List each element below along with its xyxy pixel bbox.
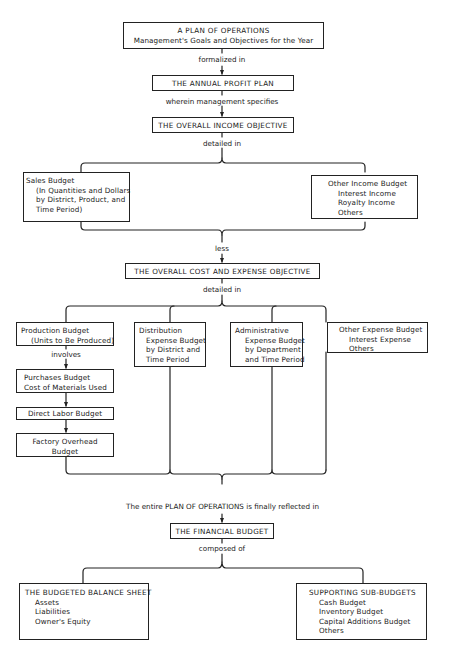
- distribution-line: by District and: [139, 345, 205, 355]
- plan-subtitle: Management's Goals and Objectives for th…: [124, 36, 323, 46]
- sales-budget-line: (In Quantities and Dollars: [26, 186, 129, 196]
- cost-objective-title: THE OVERALL COST AND EXPENSE OBJECTIVE: [134, 267, 310, 276]
- plan-of-operations-box: A PLAN OF OPERATIONS Management's Goals …: [123, 22, 324, 49]
- balance-sheet-line: Owner's Equity: [25, 617, 148, 627]
- administrative-line: Expense Budget: [235, 336, 302, 346]
- purchases-budget-box: Purchases Budget Cost of Materials Used: [16, 369, 114, 393]
- distribution-line: Time Period: [139, 355, 205, 365]
- formalized-label: formalized in: [172, 55, 272, 64]
- factory-overhead-title: Factory Overhead: [17, 437, 113, 447]
- sub-budgets-line: Others: [309, 626, 426, 636]
- other-income-title: Other Income Budget: [328, 179, 417, 189]
- composed-label: composed of: [187, 544, 257, 553]
- direct-labor-title: Direct Labor Budget: [28, 409, 102, 418]
- distribution-line: Expense Budget: [139, 336, 205, 346]
- balance-sheet-box: THE BUDGETED BALANCE SHEET Assets Liabil…: [19, 583, 149, 640]
- distribution-title: Distribution: [139, 326, 205, 336]
- factory-overhead-box: Factory Overhead Budget: [16, 433, 114, 457]
- administrative-line: by Department: [235, 345, 302, 355]
- annual-profit-plan-box: THE ANNUAL PROFIT PLAN: [152, 75, 294, 91]
- other-expense-title: Other Expense Budget: [339, 325, 427, 335]
- administrative-budget-box: Administrative Expense Budget by Departm…: [230, 322, 303, 367]
- cost-objective-box: THE OVERALL COST AND EXPENSE OBJECTIVE: [125, 263, 320, 279]
- income-objective-box: THE OVERALL INCOME OBJECTIVE: [152, 117, 294, 133]
- detailed-income-label: detailed in: [192, 139, 252, 148]
- administrative-title: Administrative: [235, 326, 302, 336]
- sub-budgets-title: SUPPORTING SUB-BUDGETS: [309, 588, 426, 598]
- balance-sheet-title: THE BUDGETED BALANCE SHEET: [25, 588, 148, 598]
- factory-overhead-line: Budget: [17, 447, 113, 457]
- production-budget-box: Production Budget (Units to Be Produced): [16, 322, 114, 346]
- involves-label: involves: [41, 350, 91, 359]
- sales-budget-line: by District, Product, and: [26, 195, 129, 205]
- financial-budget-title: THE FINANCIAL BUDGET: [175, 527, 268, 536]
- sales-budget-title: Sales Budget: [26, 176, 129, 186]
- balance-sheet-line: Assets: [25, 598, 148, 608]
- production-budget-line: (Units to Be Produced): [21, 336, 113, 346]
- purchases-budget-title: Purchases Budget: [24, 373, 113, 383]
- income-objective-title: THE OVERALL INCOME OBJECTIVE: [158, 121, 287, 130]
- other-income-line: Interest Income: [328, 189, 417, 199]
- sub-budgets-line: Cash Budget: [309, 598, 426, 608]
- administrative-line: and Time Period: [235, 355, 302, 365]
- sub-budgets-box: SUPPORTING SUB-BUDGETS Cash Budget Inven…: [296, 583, 427, 640]
- other-income-box: Other Income Budget Interest Income Roya…: [311, 175, 418, 219]
- sales-budget-line: Time Period): [26, 205, 129, 215]
- plan-title: A PLAN OF OPERATIONS: [124, 26, 323, 36]
- sub-budgets-line: Inventory Budget: [309, 607, 426, 617]
- other-expense-line: Interest Expense: [339, 335, 427, 345]
- profit-plan-title: THE ANNUAL PROFIT PLAN: [172, 79, 274, 88]
- purchases-budget-line: Cost of Materials Used: [24, 383, 113, 393]
- less-label: less: [207, 244, 237, 253]
- production-budget-title: Production Budget: [21, 326, 113, 336]
- distribution-budget-box: Distribution Expense Budget by District …: [134, 322, 206, 367]
- balance-sheet-line: Liabilities: [25, 607, 148, 617]
- detailed-cost-label: detailed in: [192, 285, 252, 294]
- other-income-line: Others: [328, 208, 417, 218]
- other-expense-box: Other Expense Budget Interest Expense Ot…: [327, 322, 428, 353]
- wherein-label: wherein management specifies: [142, 97, 302, 106]
- financial-budget-box: THE FINANCIAL BUDGET: [170, 523, 274, 539]
- sales-budget-box: Sales Budget (In Quantities and Dollars …: [23, 172, 130, 222]
- finally-reflected-label: The entire PLAN OF OPERATIONS is finally…: [100, 502, 345, 511]
- direct-labor-box: Direct Labor Budget: [16, 407, 114, 420]
- other-income-line: Royalty Income: [328, 198, 417, 208]
- sub-budgets-line: Capital Additions Budget: [309, 617, 426, 627]
- other-expense-line: Others: [339, 344, 427, 354]
